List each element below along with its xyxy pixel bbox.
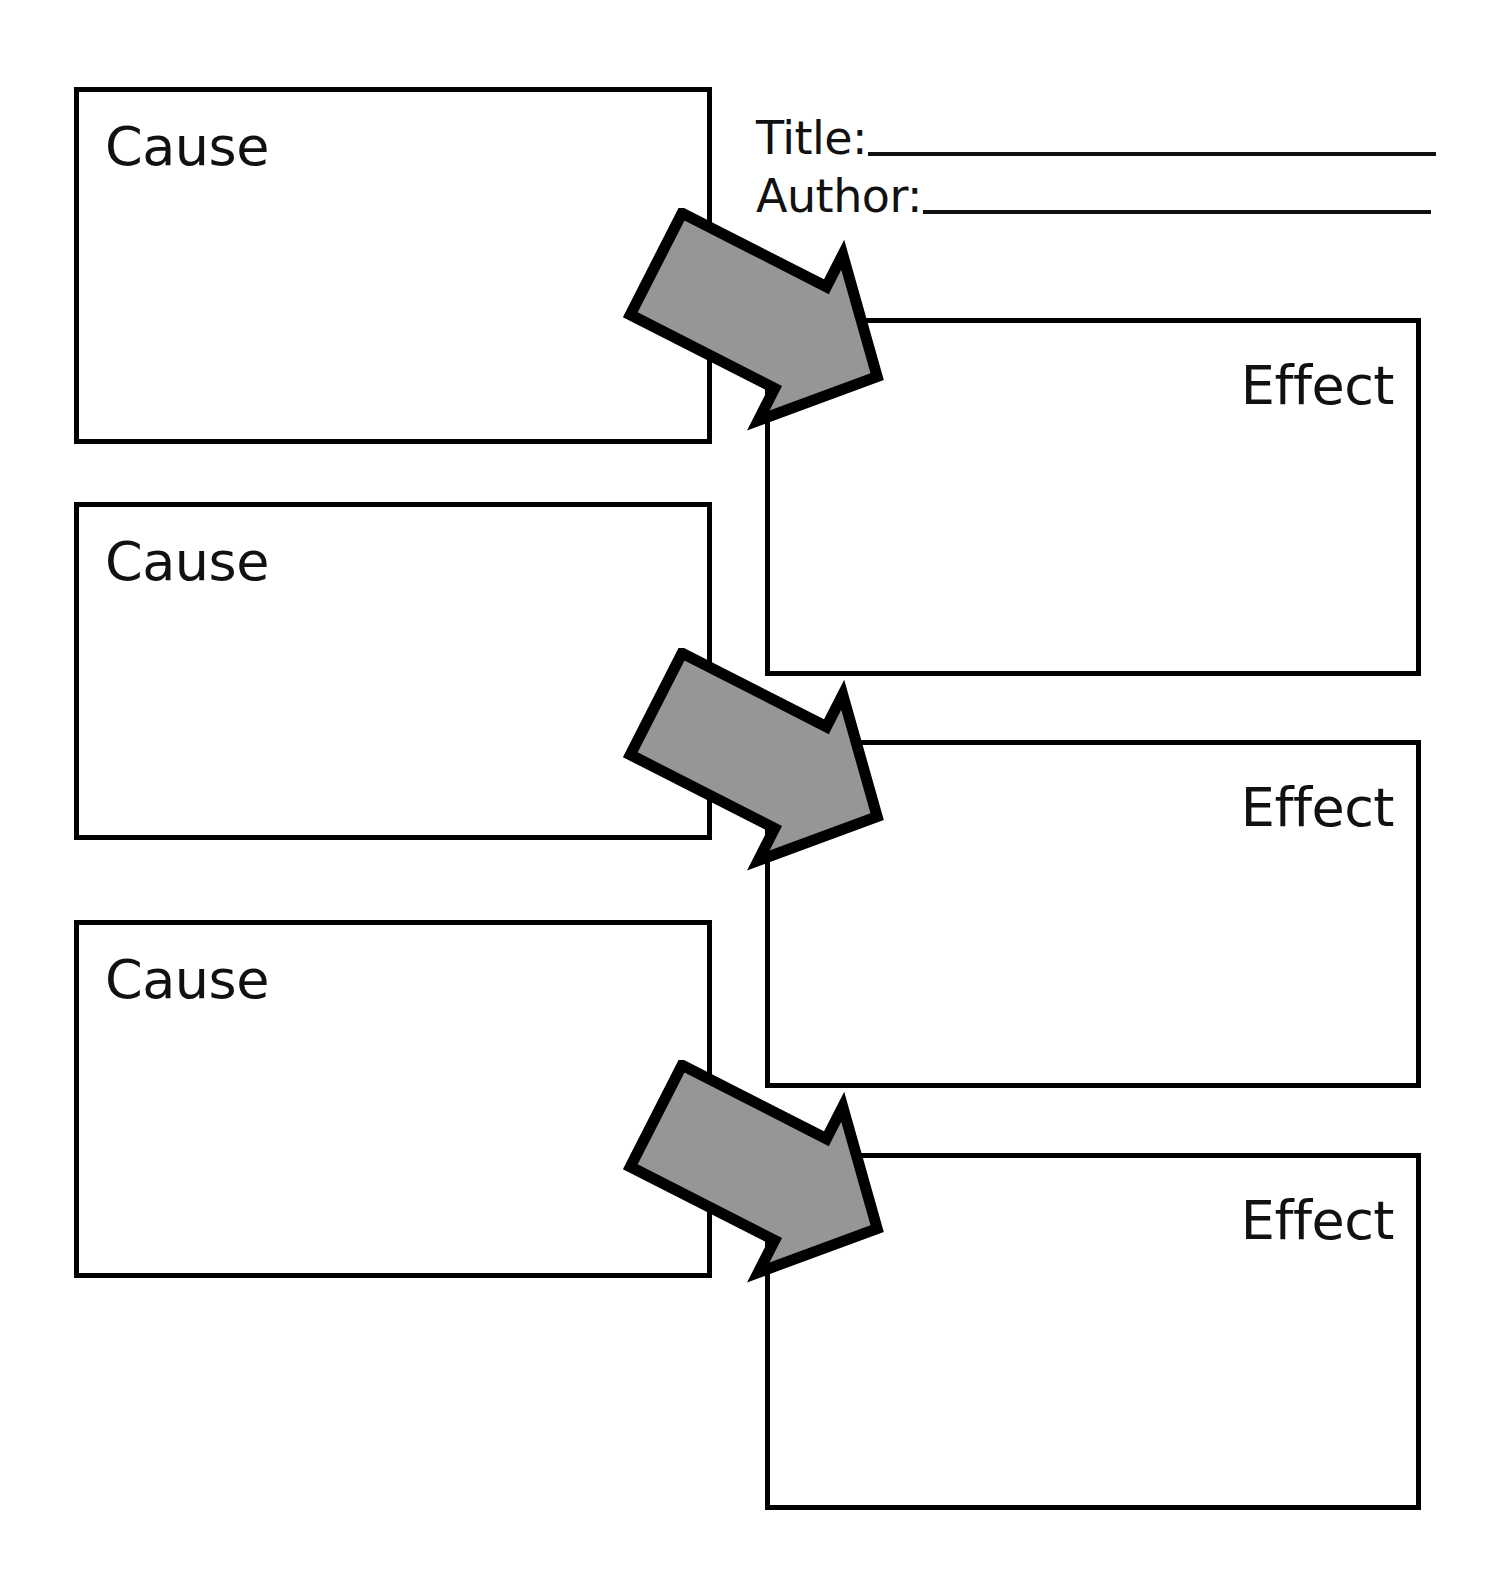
cause-box-1[interactable]: Cause [74,87,712,444]
effect-box-3[interactable]: Effect [765,1153,1421,1510]
effect-box-3-label: Effect [1241,1192,1394,1250]
effect-box-1[interactable]: Effect [765,318,1421,676]
author-field-row: Author: [756,162,1436,220]
cause-box-1-label: Cause [105,118,269,176]
title-input-line[interactable] [868,152,1436,156]
cause-box-2-label: Cause [105,533,269,591]
title-label: Title: [756,114,867,162]
author-label: Author: [756,172,922,220]
effect-box-1-label: Effect [1241,357,1394,415]
cause-box-3[interactable]: Cause [74,920,712,1278]
cause-box-2[interactable]: Cause [74,502,712,840]
header-fields: Title: Author: [756,104,1436,234]
title-field-row: Title: [756,104,1436,162]
cause-box-3-label: Cause [105,951,269,1009]
effect-box-2-label: Effect [1241,779,1394,837]
worksheet-page: Title: Author: Cause Cause Cause Effect … [0,0,1494,1594]
effect-box-2[interactable]: Effect [765,740,1421,1088]
author-input-line[interactable] [923,210,1431,214]
